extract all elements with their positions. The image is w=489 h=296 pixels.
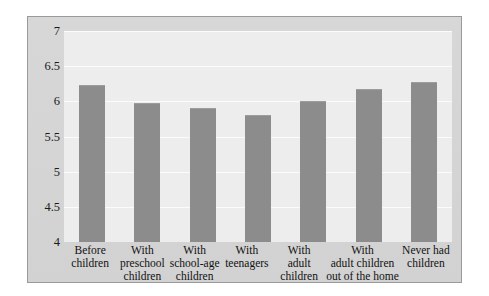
y-tick-label: 5 bbox=[28, 165, 60, 178]
x-tick-label-line: With bbox=[117, 244, 167, 257]
bar-slot bbox=[341, 31, 396, 242]
x-tick-label-line: children bbox=[274, 270, 324, 283]
y-axis: 76.565.554.54 bbox=[28, 17, 64, 242]
y-tick-label: 6.5 bbox=[28, 60, 60, 73]
x-tick-label-line: children bbox=[170, 270, 220, 283]
bar-slot bbox=[286, 31, 341, 242]
x-tick-label-line: children bbox=[401, 257, 451, 270]
x-tick-label-line: children bbox=[65, 257, 115, 270]
bar-series bbox=[64, 31, 452, 242]
x-axis: BeforechildrenWithpreschoolchildrenWiths… bbox=[64, 244, 452, 284]
x-tick-label: Withpreschoolchildren bbox=[116, 244, 168, 283]
x-tick-label: Never hadchildren bbox=[400, 244, 452, 270]
bar-slot bbox=[64, 31, 119, 242]
x-tick-label-line: With bbox=[222, 244, 272, 257]
x-tick-label: Beforechildren bbox=[64, 244, 116, 270]
bar-slot bbox=[175, 31, 230, 242]
bar-slot bbox=[119, 31, 174, 242]
x-tick-label: Withschool-agechildren bbox=[169, 244, 221, 283]
x-tick-label-line: adult children bbox=[326, 257, 399, 270]
y-tick-label: 4.5 bbox=[28, 201, 60, 214]
x-tick-label-line: out of the home bbox=[326, 270, 399, 283]
bar bbox=[190, 108, 216, 242]
x-tick-label: Withadult childrenout of the home bbox=[325, 244, 400, 283]
bar bbox=[134, 103, 160, 242]
chart-figure: 76.565.554.54 BeforechildrenWithpreschoo… bbox=[27, 16, 462, 283]
y-tick-label: 4 bbox=[28, 236, 60, 249]
y-tick-label: 6 bbox=[28, 95, 60, 108]
bar bbox=[300, 101, 326, 242]
bar bbox=[79, 85, 105, 242]
x-tick-label: Withadultchildren bbox=[273, 244, 325, 283]
bar-slot bbox=[397, 31, 452, 242]
y-tick-label: 5.5 bbox=[28, 130, 60, 143]
x-tick-label-line: children bbox=[117, 270, 167, 283]
x-tick-label-line: Before bbox=[65, 244, 115, 257]
y-tick-label: 7 bbox=[28, 25, 60, 38]
x-tick-label-line: With bbox=[326, 244, 399, 257]
x-tick-label-line: preschool bbox=[117, 257, 167, 270]
bar bbox=[245, 115, 271, 242]
x-tick-label-line: adult bbox=[274, 257, 324, 270]
x-tick-label-line: teenagers bbox=[222, 257, 272, 270]
x-tick-label-line: school-age bbox=[170, 257, 220, 270]
x-tick-label: Withteenagers bbox=[221, 244, 273, 270]
bar bbox=[356, 89, 382, 242]
plot-area bbox=[64, 31, 452, 242]
x-tick-label-line: With bbox=[274, 244, 324, 257]
bar-slot bbox=[230, 31, 285, 242]
bar bbox=[411, 82, 437, 242]
x-tick-label-line: With bbox=[170, 244, 220, 257]
x-tick-label-line: Never had bbox=[401, 244, 451, 257]
